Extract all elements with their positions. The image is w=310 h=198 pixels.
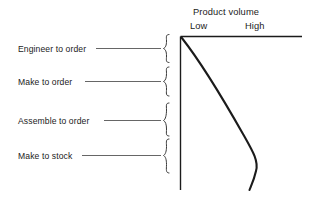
category-label-make-to-stock: Make to stock: [18, 151, 72, 161]
axis-title-product-volume: Product volume: [193, 7, 259, 17]
brace-make-to-stock: [164, 139, 170, 173]
category-label-make-to-order: Make to order: [18, 77, 72, 87]
axis-label-low: Low: [190, 21, 207, 31]
volume-variety-curve: [182, 38, 257, 191]
brace-make-to-order: [164, 67, 170, 96]
category-label-assemble-to-order: Assemble to order: [18, 116, 89, 126]
product-volume-diagram: Product volume Low High Engineer to orde…: [0, 0, 310, 198]
axis-label-high: High: [245, 21, 265, 31]
category-label-engineer-to-order: Engineer to order: [18, 44, 86, 54]
brace-engineer-to-order: [164, 35, 170, 63]
brace-assemble-to-order: [164, 103, 170, 136]
